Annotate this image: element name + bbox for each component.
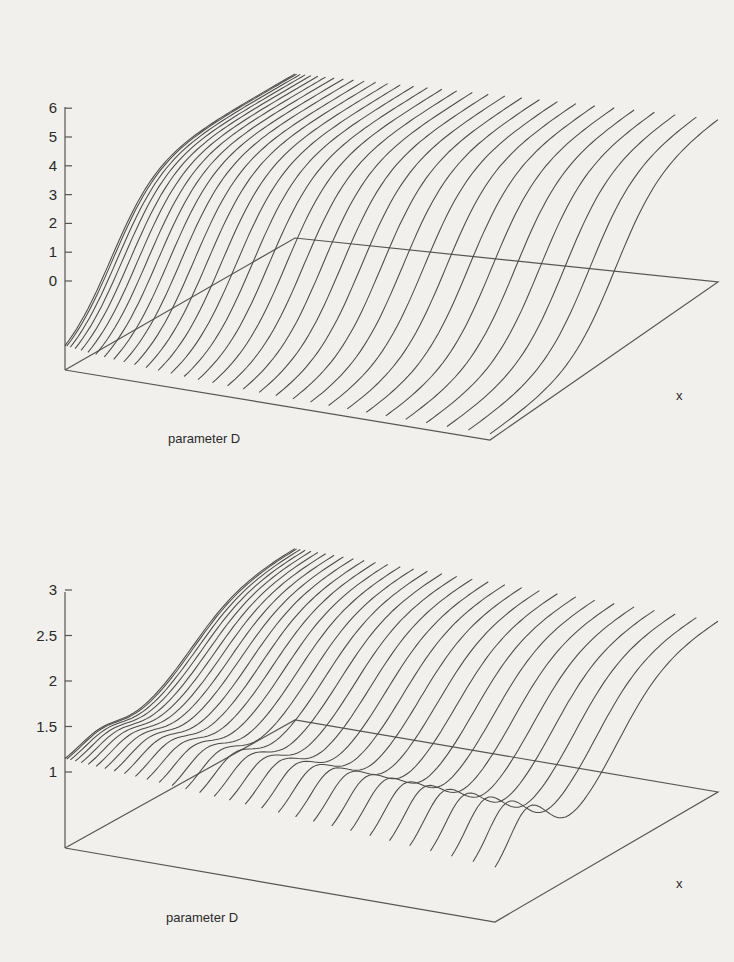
surface-curve bbox=[124, 80, 354, 362]
surface-curve bbox=[229, 576, 456, 800]
surface-curve bbox=[213, 89, 442, 382]
surface-curve bbox=[70, 74, 300, 347]
bottom-ylabel: parameter D bbox=[166, 910, 238, 925]
surface-curve bbox=[426, 112, 654, 423]
surface-curve bbox=[430, 610, 654, 851]
z-tick-label: 3 bbox=[49, 186, 57, 203]
floor-outline bbox=[65, 720, 718, 922]
figure: 0123456 parameter D x 11.522.53 paramete… bbox=[0, 0, 734, 962]
surface-curve bbox=[186, 569, 414, 789]
top-ylabel: parameter D bbox=[168, 431, 240, 446]
z-tick-label: 3 bbox=[49, 581, 57, 598]
z-tick-label: 1 bbox=[49, 763, 57, 780]
surface-curve bbox=[495, 621, 718, 867]
bottom-curves bbox=[65, 549, 718, 868]
top-xlabel: x bbox=[676, 388, 683, 403]
surface-curve bbox=[410, 607, 634, 846]
floor-outline bbox=[65, 238, 718, 440]
z-tick-label: 5 bbox=[49, 128, 57, 145]
surface-curve bbox=[293, 98, 522, 399]
surface-curve bbox=[114, 557, 343, 771]
bottom-xlabel: x bbox=[676, 876, 683, 891]
surface-curve bbox=[159, 565, 388, 783]
z-tick-label: 2.5 bbox=[36, 627, 57, 644]
bottom-frame bbox=[65, 592, 718, 922]
surface-curve bbox=[473, 618, 696, 862]
bottom-z-axis: 11.522.53 bbox=[36, 581, 72, 780]
z-tick-label: 2 bbox=[49, 672, 57, 689]
z-tick-label: 1 bbox=[49, 243, 57, 260]
surface-curve bbox=[146, 82, 376, 367]
surface-curve bbox=[228, 91, 457, 386]
surface-curve bbox=[452, 614, 676, 856]
z-tick-label: 2 bbox=[49, 214, 57, 231]
surface-curve bbox=[65, 549, 295, 759]
surface-curve bbox=[70, 550, 300, 760]
surface-curve bbox=[370, 600, 595, 836]
top-z-axis: 0123456 bbox=[49, 99, 72, 289]
surface-curve bbox=[366, 106, 595, 413]
surface-curve bbox=[124, 559, 353, 774]
z-tick-label: 1.5 bbox=[36, 718, 57, 735]
surface-curve bbox=[406, 110, 634, 419]
top-curves bbox=[65, 74, 718, 434]
z-tick-label: 6 bbox=[49, 99, 57, 116]
surface-curve bbox=[200, 571, 428, 792]
plot-top: 0123456 parameter D x bbox=[49, 74, 718, 446]
surface-curve bbox=[490, 120, 718, 434]
z-tick-label: 0 bbox=[49, 272, 57, 289]
plot-bottom: 11.522.53 parameter D x bbox=[36, 549, 718, 925]
surface-curve bbox=[172, 567, 400, 786]
z-tick-label: 4 bbox=[49, 157, 57, 174]
surface-curve bbox=[447, 115, 675, 427]
surface-curve bbox=[214, 574, 442, 797]
